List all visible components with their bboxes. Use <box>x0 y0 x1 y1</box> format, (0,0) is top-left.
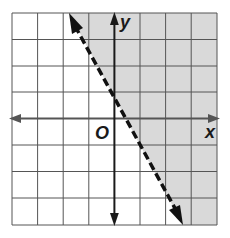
x-axis-label: x <box>204 122 216 142</box>
origin-label: O <box>95 123 109 143</box>
inequality-graph: y x O <box>0 0 230 238</box>
y-axis-label: y <box>119 12 131 32</box>
